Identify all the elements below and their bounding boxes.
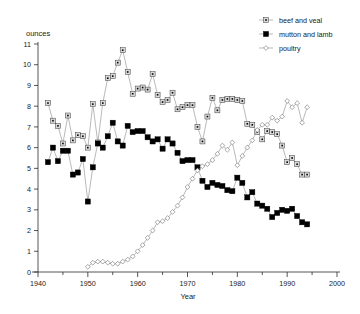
data-point-center [286,161,288,163]
data-point [205,184,210,189]
data-point [135,128,140,133]
x-tick-label: 1960 [130,279,146,288]
data-point-center [182,106,184,108]
x-tick-label: 2000 [329,279,345,288]
data-point [85,199,90,204]
data-point-center [102,102,104,104]
data-point-center [57,125,59,127]
legend-label: beef and veal [279,16,323,25]
y-tick-label: 9 [27,81,31,90]
legend-label: poultry [279,44,301,53]
data-point [230,189,235,194]
data-point [295,213,300,218]
y-tick-label: 5 [27,164,31,173]
line-chart: 0123456789101119401950196019701980199020… [0,0,360,314]
data-point-center [77,134,79,136]
data-point-center [192,104,194,106]
data-point-center [142,87,144,89]
y-tick-label: 2 [27,226,31,235]
data-point [210,180,215,185]
data-point-center [187,104,189,106]
data-point [180,159,185,164]
data-point-center [281,145,283,147]
data-point-center [237,99,239,101]
data-point-center [232,98,234,100]
y-tick-label: 7 [27,123,31,132]
data-point [285,208,290,213]
x-tick-label: 1950 [80,279,96,288]
data-point [105,134,110,139]
data-point-center [306,174,308,176]
chart-container: 0123456789101119401950196019701980199020… [0,0,360,314]
data-point-center [251,124,253,126]
data-point [200,178,205,183]
data-point-center [92,103,94,105]
x-tick-label: 1940 [30,279,46,288]
data-point-center [172,92,174,94]
data-point [175,150,180,155]
data-point [75,170,80,175]
data-point-center [47,102,49,104]
data-point-center [162,101,164,103]
data-point-center [207,116,209,118]
data-point [145,135,150,140]
data-point-center [301,174,303,176]
data-point-center [222,99,224,101]
data-point [100,145,105,150]
data-point [130,129,135,134]
data-point [90,165,95,170]
data-point-center [291,157,293,159]
data-point [125,123,130,128]
data-point-center [266,130,268,132]
data-point [80,156,85,161]
data-point [245,195,250,200]
data-point-center [242,100,244,102]
data-point [220,183,225,188]
x-tick-label: 1970 [180,279,196,288]
data-point-center [132,93,134,95]
data-point [70,172,75,177]
x-tick-label: 1980 [229,279,245,288]
y-tick-label: 0 [27,268,31,277]
data-point [165,137,170,142]
data-point [185,157,190,162]
data-point-center [212,97,214,99]
data-point-center [271,131,273,133]
y-tick-label: 11 [24,40,31,49]
y-tick-label: 10 [23,60,31,69]
data-point [65,148,70,153]
data-point [150,139,155,144]
x-tick-label: 1990 [279,279,295,288]
data-point-center [127,71,129,73]
data-point-center [227,98,229,100]
data-point-center [52,120,54,122]
data-point [250,190,255,195]
data-point-center [82,135,84,137]
data-point [260,203,265,208]
data-point-center [122,49,124,51]
legend-marker-center [265,19,267,21]
data-point [45,160,50,165]
data-point [240,180,245,185]
data-point [50,145,55,150]
data-point [280,207,285,212]
data-point-center [62,143,64,145]
data-point [115,139,120,144]
data-point-center [276,133,278,135]
data-point [270,214,275,219]
data-point [160,146,165,151]
x-axis-label: Year [180,292,196,301]
data-point-center [147,89,149,91]
data-point [300,220,305,225]
y-axis-label: ounces [26,29,50,38]
legend-marker [263,31,268,36]
data-point-center [202,141,204,143]
data-point [290,206,295,211]
data-point-center [112,75,114,77]
data-point [305,222,310,227]
data-point-center [137,88,139,90]
data-point-center [197,126,199,128]
data-point [215,182,220,187]
data-point-center [87,147,89,149]
data-point [140,128,145,133]
